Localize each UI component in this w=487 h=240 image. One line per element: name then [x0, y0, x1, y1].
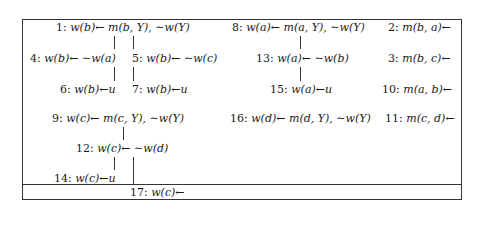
node-3: 3: m(b, c)←	[388, 52, 451, 65]
node-12: 12: w(c)← ∼w(d)	[76, 142, 168, 155]
node-13: 13: w(a)← ∼w(b)	[256, 52, 349, 65]
edge-8-13	[300, 36, 301, 49]
edge-12-17	[133, 157, 134, 184]
node-6: 6: w(b)←u	[60, 83, 116, 96]
node-7: 7: w(b)←u	[132, 83, 188, 96]
edge-5-7	[133, 67, 134, 81]
node-14: 14: w(c)←u	[54, 172, 116, 185]
edge-13-15	[300, 67, 301, 81]
edge-1-4	[114, 36, 115, 49]
node-8: 8: w(a)← m(a, Y), ∼w(Y)	[232, 21, 365, 34]
node-2: 2: m(b, a)←	[388, 21, 451, 34]
node-11: 11: m(c, d)←	[385, 112, 455, 125]
node-1: 1: w(b)← m(b, Y), ∼w(Y)	[56, 21, 190, 34]
edge-12-14	[114, 157, 115, 170]
node-16: 16: w(d)← m(d, Y), ∼w(Y)	[230, 112, 371, 125]
node-9: 9: w(c)← m(c, Y), ∼w(Y)	[52, 112, 184, 125]
edge-4-6	[114, 67, 115, 81]
node-4: 4: w(b)← ∼w(a)	[30, 52, 116, 65]
node-5: 5: w(b)← ∼w(c)	[132, 52, 217, 65]
edge-1-5	[133, 36, 134, 49]
node-17: 17: w(c)←	[130, 186, 185, 199]
edge-9-12	[123, 127, 124, 140]
node-15: 15: w(a)←u	[270, 83, 332, 96]
node-10: 10: m(a, b)←	[382, 83, 452, 96]
